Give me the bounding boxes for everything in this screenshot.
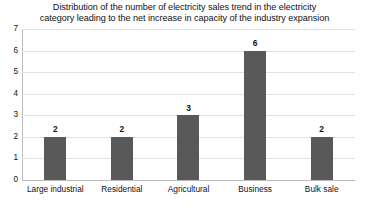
x-axis-label: Bulk sale — [305, 184, 339, 194]
x-axis-label: Business — [238, 184, 272, 194]
bar[interactable] — [244, 51, 266, 180]
bar[interactable] — [177, 115, 199, 180]
chart-title-line-2: category leading to the net increase in … — [10, 13, 359, 24]
y-tick-label-3: 3 — [2, 111, 18, 119]
x-axis-label: Agricultural — [168, 184, 210, 194]
plot-area: 22362 — [22, 29, 355, 180]
bar-value-label: 2 — [120, 125, 125, 133]
bar-slot: 2 — [89, 29, 156, 180]
chart-title-line-1: Distribution of the number of electricit… — [10, 2, 359, 13]
y-tick-label-7: 7 — [2, 25, 18, 33]
bar[interactable] — [311, 137, 333, 180]
y-tick-label-5: 5 — [2, 68, 18, 76]
bar-value-label: 2 — [319, 125, 324, 133]
x-axis-label: Residential — [101, 184, 142, 194]
bar-chart: Distribution of the number of electricit… — [0, 0, 369, 209]
x-axis-label: Large industrial — [27, 184, 84, 194]
bar-slot: 2 — [22, 29, 89, 180]
gridline-0 — [22, 180, 355, 181]
bar-slot: 3 — [155, 29, 222, 180]
y-tick-label-4: 4 — [2, 90, 18, 98]
bar-slot: 6 — [222, 29, 289, 180]
x-axis-category-labels: Large industrialResidentialAgriculturalB… — [22, 184, 355, 198]
bar[interactable] — [44, 137, 66, 180]
y-tick-label-2: 2 — [2, 133, 18, 141]
bars-layer: 22362 — [22, 29, 355, 180]
y-tick-label-1: 1 — [2, 154, 18, 162]
bar-value-label: 2 — [53, 125, 58, 133]
bar-value-label: 3 — [186, 104, 191, 112]
y-tick-label-6: 6 — [2, 46, 18, 54]
chart-title: Distribution of the number of electricit… — [10, 2, 359, 24]
bar-slot: 2 — [288, 29, 355, 180]
bar-value-label: 6 — [253, 39, 258, 47]
bar[interactable] — [111, 137, 133, 180]
y-tick-label-0: 0 — [2, 176, 18, 184]
y-axis-tick-labels: 01234567 — [0, 29, 18, 180]
